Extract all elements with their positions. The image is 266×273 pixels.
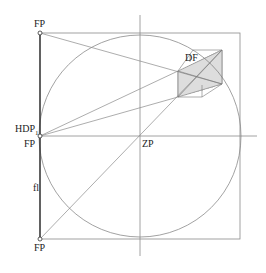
label-fl: fl xyxy=(33,183,39,193)
label-hdp-text: HDP xyxy=(15,123,35,134)
diagonal-line xyxy=(40,50,222,239)
ray-hdp-2 xyxy=(40,97,178,136)
label-fp-mid: FP xyxy=(24,139,35,149)
label-df: DF xyxy=(185,53,198,63)
label-fp-top: FP xyxy=(34,19,45,29)
label-hdp-sub: 1 xyxy=(35,129,39,137)
fp-top-point xyxy=(38,31,42,35)
label-zp: ZP xyxy=(142,139,154,149)
label-hdp: HDP1 xyxy=(15,124,39,137)
label-fp-bottom: FP xyxy=(34,243,45,253)
perspective-diagram xyxy=(0,0,266,273)
ray-hdp-1 xyxy=(40,71,178,136)
fp-bottom-point xyxy=(38,237,42,241)
